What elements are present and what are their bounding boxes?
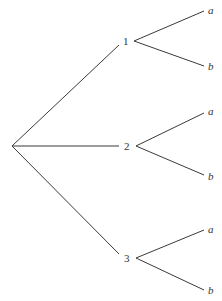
edge-3-b bbox=[136, 258, 204, 290]
edge-root-3 bbox=[12, 146, 119, 254]
node-1-label: 1 bbox=[123, 35, 129, 47]
leaf-2-a: a bbox=[208, 105, 214, 117]
node-3-label: 3 bbox=[124, 252, 130, 264]
leaf-3-a: a bbox=[208, 223, 214, 235]
leaf-1-a: a bbox=[208, 4, 214, 16]
edge-2-b bbox=[136, 146, 204, 175]
leaf-2-b: b bbox=[208, 170, 214, 182]
edge-root-1 bbox=[12, 45, 119, 146]
edge-2-a bbox=[136, 113, 204, 146]
edge-1-a bbox=[134, 11, 204, 41]
edge-1-b bbox=[134, 41, 204, 66]
edge-3-a bbox=[136, 230, 204, 258]
leaf-3-b: b bbox=[208, 284, 214, 296]
node-2-label: 2 bbox=[124, 140, 130, 152]
tree-diagram: 1 2 3 a b a b a b bbox=[0, 0, 222, 301]
leaf-1-b: b bbox=[208, 60, 214, 72]
